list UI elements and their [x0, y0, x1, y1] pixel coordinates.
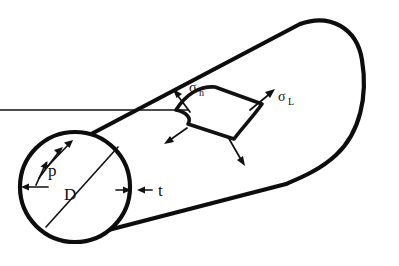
hoop-stress-arrow-opposite	[164, 128, 187, 144]
hoop-stress-subscript: h	[199, 87, 204, 98]
thickness-arrow-right	[137, 187, 152, 194]
thickness-label: t	[158, 181, 163, 200]
longitudinal-stress-arrow-opposite	[228, 137, 245, 166]
longitudinal-stress-symbol: σ	[278, 89, 286, 104]
longitudinal-stress-subscript: L	[288, 96, 294, 107]
pressure-vessel-diagram: p D t	[0, 0, 399, 266]
hoop-stress-arrow	[0, 89, 190, 112]
pressure-label: p	[48, 161, 57, 180]
hoop-stress-symbol: σ	[189, 80, 197, 95]
longitudinal-stress-label-group: σ L	[278, 89, 294, 107]
vessel-illustration: p D t	[0, 0, 399, 266]
diameter-label: D	[64, 185, 76, 204]
